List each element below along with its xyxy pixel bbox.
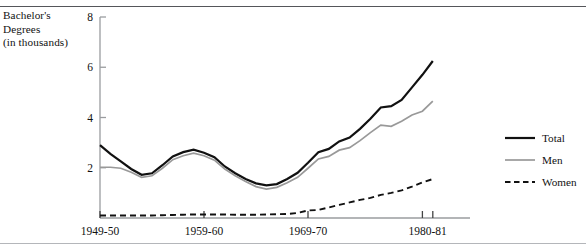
- axes-layer: [100, 17, 470, 218]
- series-layer: [100, 61, 433, 216]
- line-chart-plot: 24681949-501959-601969-701980-81 TotalMe…: [0, 0, 586, 249]
- x-axis-tick-label: 1969-70: [289, 225, 328, 237]
- legend-label-total: Total: [542, 132, 565, 144]
- series-line-total: [100, 61, 433, 185]
- y-axis-tick-label: 6: [87, 61, 93, 73]
- x-axis-tick-label: 1959-60: [185, 225, 224, 237]
- series-line-men: [100, 101, 433, 189]
- figure-container: Bachelor's Degrees (in thousands) 246819…: [0, 0, 586, 249]
- legend-layer: TotalMenWomen: [505, 132, 577, 188]
- x-axis-tick-label: 1980-81: [408, 225, 447, 237]
- y-axis-tick-label: 2: [87, 162, 93, 174]
- tick-label-layer: 24681949-501959-601969-701980-81: [81, 11, 447, 237]
- y-axis-tick-label: 4: [87, 112, 93, 124]
- y-axis-tick-label: 8: [87, 11, 93, 23]
- legend-label-women: Women: [542, 176, 577, 188]
- x-axis-tick-label: 1949-50: [81, 225, 120, 237]
- legend-label-men: Men: [542, 154, 563, 166]
